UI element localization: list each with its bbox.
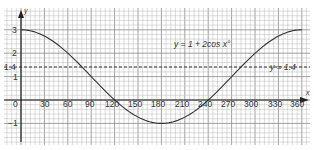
y-tick-minus-1: −1: [8, 118, 18, 128]
chart: y x 3 2 1.4 1 −1 0 30 60 90 120 150 180 …: [0, 0, 314, 150]
line-label: y = 1.4: [269, 62, 296, 72]
x-tick-270: 270: [221, 99, 235, 109]
y-tick-2: 2: [12, 48, 17, 58]
x-tick-360: 360: [290, 99, 304, 109]
y-tick-1: 1: [13, 72, 18, 82]
x-tick-180: 180: [151, 99, 165, 109]
x-tick-210: 210: [175, 99, 189, 109]
x-tick-30: 30: [40, 99, 50, 109]
y-axis-label: y: [23, 7, 28, 15]
x-tick-120: 120: [105, 99, 119, 109]
y-tick-3: 3: [12, 25, 17, 35]
x-axis-label: x: [305, 89, 310, 96]
grid: [4, 8, 310, 145]
x-tick-300: 300: [244, 99, 258, 109]
x-tick-60: 60: [63, 99, 73, 109]
x-tick-330: 330: [268, 99, 282, 109]
y-tick-1.4: 1.4: [4, 62, 16, 72]
x-tick-240: 240: [198, 99, 212, 109]
x-tick-90: 90: [85, 99, 95, 109]
x-tick-150: 150: [128, 99, 142, 109]
curve-label: y = 1 + 2cos x°: [173, 39, 231, 49]
x-tick-0: 0: [13, 99, 18, 109]
